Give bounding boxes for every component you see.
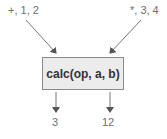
input-label-2: *, 3, 4 <box>130 4 159 16</box>
output-label-2: 12 <box>102 116 114 128</box>
function-box: calc(op, a, b) <box>42 57 124 90</box>
function-label: calc(op, a, b) <box>46 67 119 81</box>
arrow-input-1 <box>26 20 56 53</box>
arrow-input-2 <box>110 20 141 53</box>
input-label-1: +, 1, 2 <box>8 4 39 16</box>
output-label-1: 3 <box>52 116 58 128</box>
